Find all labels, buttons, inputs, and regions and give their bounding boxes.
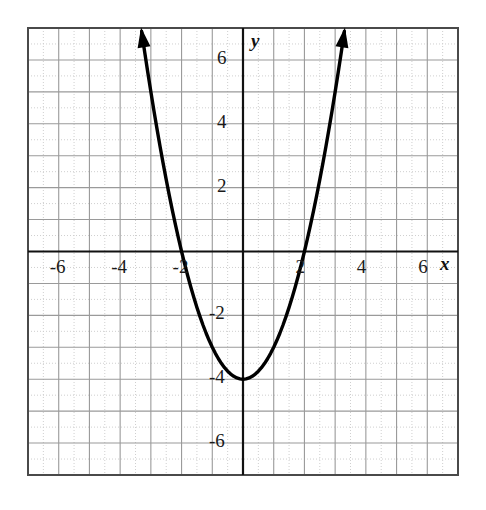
x-tick-label: -4 bbox=[111, 256, 127, 278]
y-tick-label: -6 bbox=[209, 430, 225, 452]
y-tick-label: 6 bbox=[217, 47, 227, 69]
y-tick-label: 2 bbox=[217, 175, 227, 197]
y-axis-label: y bbox=[251, 30, 259, 52]
x-tick-label: -2 bbox=[173, 256, 189, 278]
y-tick-label: -4 bbox=[209, 366, 225, 388]
coordinate-plane-svg bbox=[0, 0, 486, 510]
y-tick-label: 4 bbox=[217, 111, 227, 133]
x-tick-label: 6 bbox=[418, 256, 428, 278]
x-tick-label: -6 bbox=[50, 256, 66, 278]
graph-canvas: -6-4-2246642-2-4-6 x y bbox=[0, 0, 486, 510]
x-tick-label: 2 bbox=[295, 256, 305, 278]
x-tick-label: 4 bbox=[357, 256, 367, 278]
x-axis-label: x bbox=[440, 253, 450, 275]
y-tick-label: -2 bbox=[209, 302, 225, 324]
